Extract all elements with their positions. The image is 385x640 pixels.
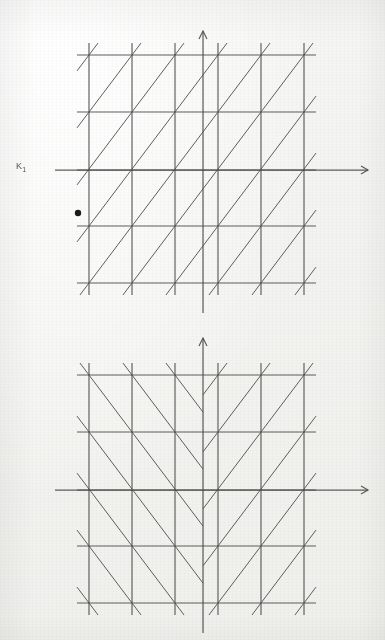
diagonal-line bbox=[77, 473, 184, 615]
diagonal-line bbox=[166, 96, 316, 295]
diagonal-line bbox=[77, 43, 227, 242]
axes-group bbox=[55, 338, 368, 633]
axes-group bbox=[55, 31, 368, 313]
diagonal-line bbox=[295, 267, 316, 295]
label-subscript: 1 bbox=[22, 166, 26, 173]
lattice-diagram-k1-prime bbox=[0, 320, 385, 640]
diagonal-line bbox=[295, 587, 316, 615]
diagonal-lines-group bbox=[77, 43, 316, 295]
diagonal-line bbox=[203, 363, 270, 452]
marked-point-dot bbox=[75, 210, 81, 216]
lattice-diagram-k1 bbox=[0, 0, 385, 320]
diagonal-line bbox=[209, 153, 316, 295]
diagonal-line bbox=[77, 43, 184, 185]
diagonal-line bbox=[77, 416, 203, 583]
diagonal-line bbox=[203, 363, 313, 509]
diagonal-line bbox=[123, 363, 203, 469]
scanned-page: K1 K′1 bbox=[0, 0, 385, 640]
figure-k1-label: K1 bbox=[16, 161, 26, 173]
figure-k1: K1 bbox=[0, 0, 385, 320]
diagonal-line bbox=[77, 43, 98, 71]
diagonal-line bbox=[209, 473, 316, 615]
diagonal-line bbox=[77, 587, 98, 615]
diagonal-line bbox=[203, 363, 227, 395]
diagonal-line bbox=[166, 363, 203, 412]
diagonal-line bbox=[203, 416, 316, 566]
figure-k1-prime: K′1 bbox=[0, 320, 385, 640]
diagonal-lines-group bbox=[77, 363, 316, 615]
